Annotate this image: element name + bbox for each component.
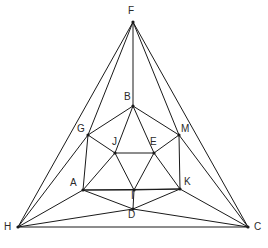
vertex-point-C xyxy=(246,225,249,228)
vertex-point-E xyxy=(152,151,155,154)
vertex-label-K: K xyxy=(184,177,191,187)
vertex-point-B xyxy=(131,104,134,107)
vertex-point-F xyxy=(131,20,134,23)
vertex-label-F: F xyxy=(128,6,134,16)
vertex-point-H xyxy=(16,225,19,228)
vertex-label-B: B xyxy=(124,92,131,102)
edge-BJ xyxy=(115,106,133,153)
geometry-figure: FHCBGMJEAKID xyxy=(0,0,268,248)
vertex-label-I: I xyxy=(131,191,134,201)
edge-KD xyxy=(133,189,180,209)
vertex-point-J xyxy=(113,151,116,154)
edge-EK xyxy=(154,153,180,189)
vertex-label-G: G xyxy=(77,124,85,134)
vertex-label-H: H xyxy=(4,222,11,232)
vertex-label-D: D xyxy=(128,210,135,220)
edge-FH xyxy=(18,22,133,227)
edge-JA xyxy=(83,153,115,190)
edge-BG xyxy=(88,106,133,135)
vertex-label-J: J xyxy=(112,137,117,147)
vertex-label-A: A xyxy=(70,178,77,188)
vertex-label-E: E xyxy=(150,137,157,147)
edge-HG xyxy=(18,135,88,227)
edge-FC xyxy=(133,22,248,227)
edge-JI xyxy=(115,153,134,190)
edge-GA xyxy=(83,135,88,190)
edge-ME xyxy=(154,135,179,153)
edge-CD xyxy=(133,209,248,227)
vertex-label-M: M xyxy=(181,124,189,134)
edge-HD xyxy=(18,209,133,227)
edge-FM xyxy=(133,22,179,135)
vertex-label-C: C xyxy=(254,222,261,232)
edge-GJ xyxy=(88,135,115,153)
vertex-point-K xyxy=(178,187,181,190)
edge-MK xyxy=(179,135,180,189)
vertex-point-G xyxy=(86,133,89,136)
edge-AD xyxy=(83,190,133,209)
vertex-point-A xyxy=(81,188,84,191)
edge-EI xyxy=(134,153,154,190)
edge-FG xyxy=(88,22,133,135)
